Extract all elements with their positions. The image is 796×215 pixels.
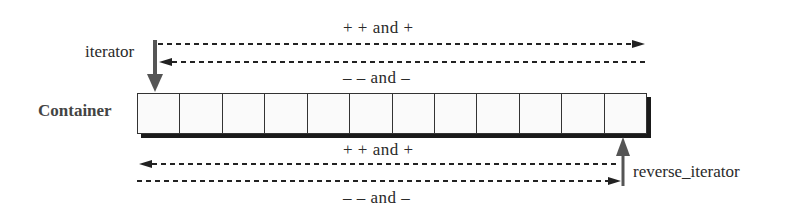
iterator-backward-arrow-icon xyxy=(159,58,645,66)
reverse-iterator-up-arrow-icon xyxy=(616,137,630,186)
arrows-layer xyxy=(0,0,796,215)
reverse-iterator-backward-arrow-icon xyxy=(137,177,621,185)
iterator-forward-arrow-icon xyxy=(158,40,645,48)
reverse-iterator-forward-arrow-icon xyxy=(139,160,619,168)
iterator-down-arrow-icon xyxy=(147,40,163,92)
